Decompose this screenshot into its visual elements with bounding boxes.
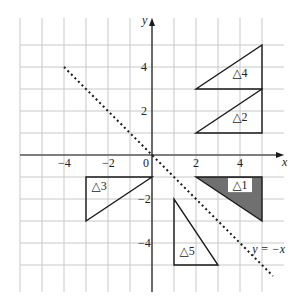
triangle-label: △2 bbox=[232, 110, 247, 124]
triangle-label: △3 bbox=[92, 179, 107, 193]
triangle-label: △4 bbox=[232, 66, 247, 80]
x-tick-label: 4 bbox=[237, 156, 243, 170]
mirror-line-y-equals-minus-x bbox=[64, 67, 273, 276]
x-axis-label: x bbox=[281, 155, 288, 169]
y-tick-label: 4 bbox=[141, 60, 147, 74]
x-tick-label: −4 bbox=[58, 156, 71, 170]
y-axis-label: y bbox=[141, 13, 148, 27]
y-tick-label: 2 bbox=[141, 104, 147, 118]
coordinate-diagram: x y 0 −4−22442−2−4 △1△2△3△4△5 y = −x bbox=[0, 0, 306, 307]
y-tick-label: −2 bbox=[138, 192, 151, 206]
x-tick-label: 2 bbox=[193, 156, 199, 170]
triangle-label: △1 bbox=[232, 178, 247, 192]
x-tick-label: −2 bbox=[102, 156, 115, 170]
y-tick-label: −4 bbox=[138, 236, 151, 250]
y-axis-arrow-icon bbox=[149, 18, 155, 26]
mirror-line-label: y = −x bbox=[251, 242, 286, 256]
origin-label: 0 bbox=[143, 156, 149, 170]
triangle-label: △5 bbox=[180, 244, 195, 258]
mirror-line: y = −x bbox=[64, 67, 286, 276]
diagram-canvas: x y 0 −4−22442−2−4 △1△2△3△4△5 y = −x bbox=[0, 0, 306, 307]
